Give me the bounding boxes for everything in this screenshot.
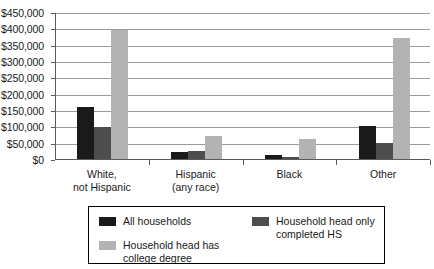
- bar: [188, 151, 205, 159]
- bar-group: [150, 13, 244, 159]
- bar-group: [56, 13, 150, 159]
- x-axis-category-label: Hispanic(any race): [149, 168, 243, 194]
- legend-label: Household head only completed HS: [276, 215, 375, 241]
- bar-group: [244, 13, 338, 159]
- legend-entry: All households: [99, 215, 191, 228]
- y-axis: $0$50,000$100,000$150,000$200,000$250,00…: [0, 0, 50, 170]
- chart-legend: All householdsHousehold head only comple…: [88, 206, 385, 264]
- bar: [299, 139, 316, 159]
- x-axis-category-label: Other: [336, 168, 430, 181]
- plot-area: [55, 13, 430, 160]
- y-axis-tick-label: $100,000: [1, 122, 44, 132]
- bar-chart: $0$50,000$100,000$150,000$200,000$250,00…: [0, 0, 434, 269]
- bar: [205, 136, 222, 159]
- bar: [393, 38, 410, 159]
- bar: [282, 157, 299, 159]
- x-axis-tick-mark: [243, 160, 244, 165]
- bar-group: [337, 13, 431, 159]
- bar: [111, 30, 128, 159]
- x-axis-category-label: Black: [243, 168, 337, 181]
- legend-label: All households: [123, 215, 191, 228]
- x-axis-tick-mark: [149, 160, 150, 165]
- y-axis-tick-label: $450,000: [1, 8, 44, 18]
- legend-swatch-icon: [252, 217, 269, 226]
- legend-entry: Household head only completed HS: [252, 215, 375, 241]
- y-axis-tick-label: $50,000: [7, 139, 44, 149]
- y-axis-tick-label: $0: [33, 155, 44, 165]
- y-axis-tick-label: $150,000: [1, 106, 44, 116]
- y-axis-tick-label: $300,000: [1, 57, 44, 67]
- legend-swatch-icon: [99, 217, 116, 226]
- legend-label: Household head has college degree: [123, 239, 219, 265]
- bar: [94, 127, 111, 159]
- x-axis-tick-mark: [336, 160, 337, 165]
- bar: [171, 152, 188, 159]
- x-axis-tick-mark: [430, 160, 431, 165]
- bar: [359, 126, 376, 159]
- legend-swatch-icon: [99, 241, 116, 250]
- y-axis-tick-label: $400,000: [1, 24, 44, 34]
- x-axis-category-label: White,not Hispanic: [55, 168, 149, 194]
- legend-entry: Household head has college degree: [99, 239, 219, 265]
- bar: [265, 155, 282, 159]
- y-axis-tick-label: $200,000: [1, 90, 44, 100]
- y-axis-tick-label: $250,000: [1, 73, 44, 83]
- bar: [376, 143, 393, 159]
- y-axis-tick-label: $350,000: [1, 41, 44, 51]
- bar: [77, 107, 94, 159]
- y-axis-tick-mark: [51, 160, 55, 161]
